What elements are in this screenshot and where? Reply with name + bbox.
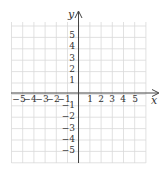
- x-tick-label: 4: [120, 94, 126, 104]
- y-tick-label: 1: [69, 75, 75, 85]
- y-tick-label: 3: [69, 53, 75, 63]
- y-tick-label: −5: [62, 145, 76, 155]
- y-tick-label: −2: [62, 111, 75, 121]
- x-tick-label: 2: [98, 94, 104, 104]
- y-tick-label: −4: [62, 134, 76, 144]
- y-axis-label: y: [67, 8, 75, 21]
- y-tick-label: −3: [62, 123, 76, 133]
- x-tick-label: 3: [109, 94, 115, 104]
- y-tick-label: 4: [69, 41, 75, 51]
- y-tick-label: 2: [69, 64, 75, 74]
- x-axis-label: x: [151, 94, 158, 107]
- y-tick-label: 5: [69, 30, 75, 40]
- coordinate-plane: x y −5−4−3−2−112345 54321−1−2−3−4−5: [0, 0, 167, 176]
- x-tick-label: 1: [87, 94, 93, 104]
- y-tick-label: −1: [62, 100, 75, 110]
- x-tick-label: 5: [132, 94, 138, 104]
- x-tick-labels: −5−4−3−2−112345: [12, 94, 138, 104]
